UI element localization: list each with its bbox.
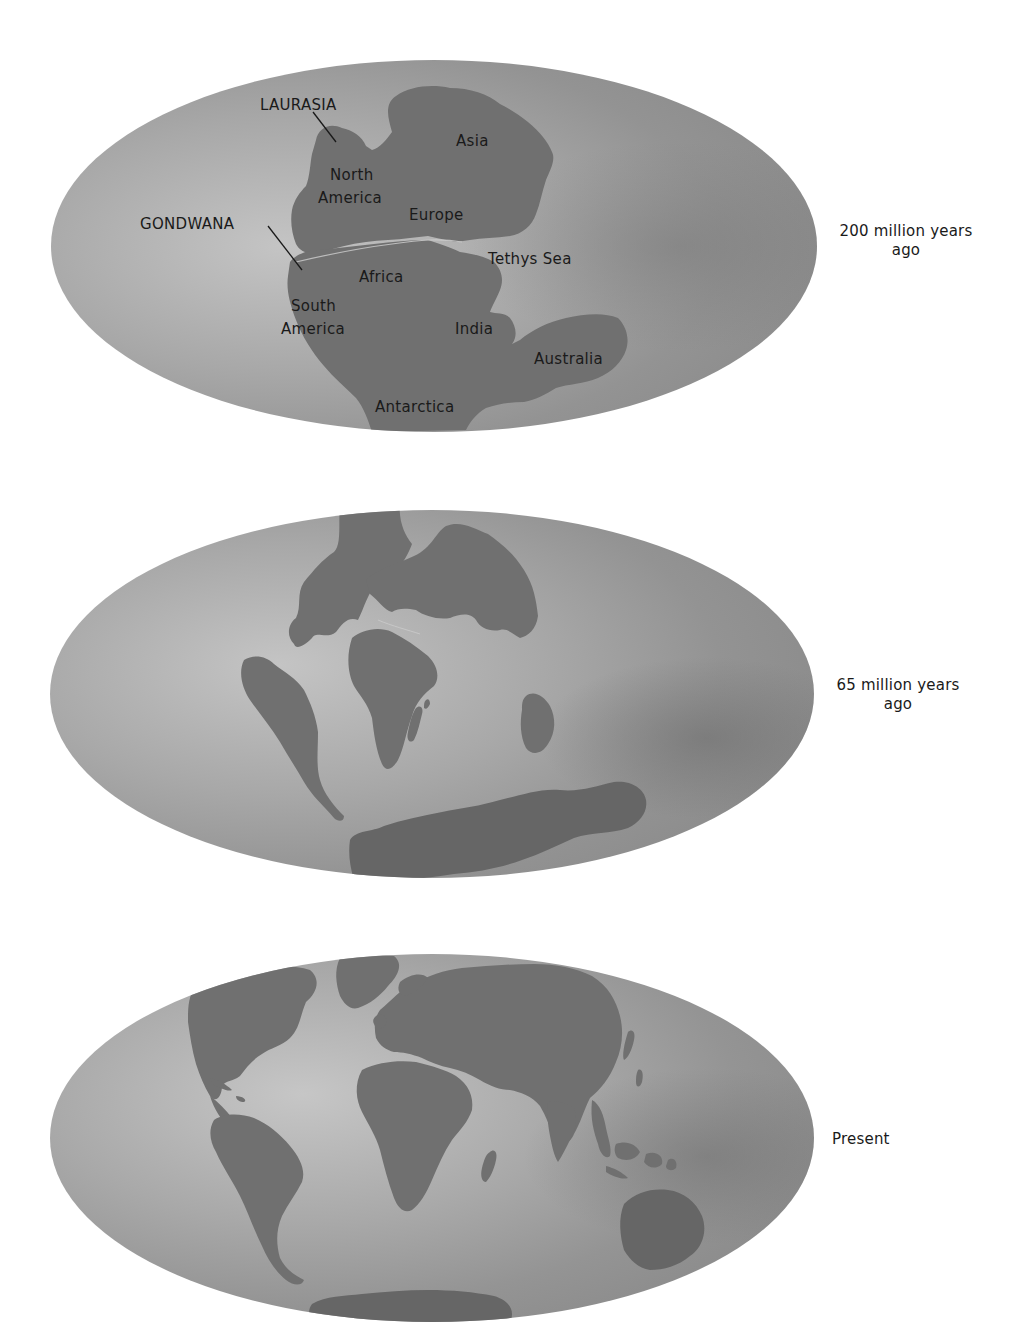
panel-present: Present <box>0 920 1024 1328</box>
era-label-line1: Present <box>832 1130 912 1149</box>
era-label-65-mya: 65 million years ago <box>818 676 978 714</box>
panel-65-million-years-ago: 65 million years ago <box>0 460 1024 920</box>
era-label-line2: ago <box>818 695 978 714</box>
label-tethys-sea: Tethys Sea <box>487 250 572 268</box>
label-europe: Europe <box>409 206 464 224</box>
label-australia: Australia <box>534 350 603 368</box>
era-label-line1: 65 million years <box>818 676 978 695</box>
label-laurasia: LAURASIA <box>260 96 337 114</box>
panel-200-million-years-ago: LAURASIA Asia North America Europe GONDW… <box>0 0 1024 460</box>
label-antarctica: Antarctica <box>375 398 454 416</box>
era-label-present: Present <box>832 1130 912 1149</box>
era-label-line1: 200 million years <box>826 222 986 241</box>
label-africa: Africa <box>359 268 404 286</box>
label-india: India <box>455 320 493 338</box>
label-north-america-2: America <box>318 189 382 207</box>
globe-present <box>0 920 1024 1328</box>
label-south-america-1: South <box>291 297 336 315</box>
era-label-line2: ago <box>826 241 986 260</box>
label-gondwana: GONDWANA <box>140 215 235 233</box>
era-label-200-mya: 200 million years ago <box>826 222 986 260</box>
label-north-america-1: North <box>330 166 373 184</box>
label-south-america-2: America <box>281 320 345 338</box>
continental-drift-figure: LAURASIA Asia North America Europe GONDW… <box>0 0 1024 1328</box>
label-asia: Asia <box>456 132 489 150</box>
new-zealand-landmass <box>694 1270 709 1294</box>
